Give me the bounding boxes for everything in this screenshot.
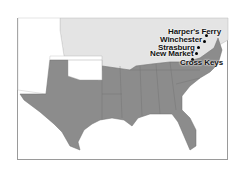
us-south-map [0, 0, 243, 173]
location-label-new-market: New Market [150, 49, 193, 58]
indian-territory [68, 60, 102, 80]
location-marker-winchester [203, 40, 206, 43]
location-marker-strasburg [197, 46, 200, 49]
location-marker-new-market [195, 52, 198, 55]
location-label-cross-keys: Cross Keys [180, 58, 223, 67]
